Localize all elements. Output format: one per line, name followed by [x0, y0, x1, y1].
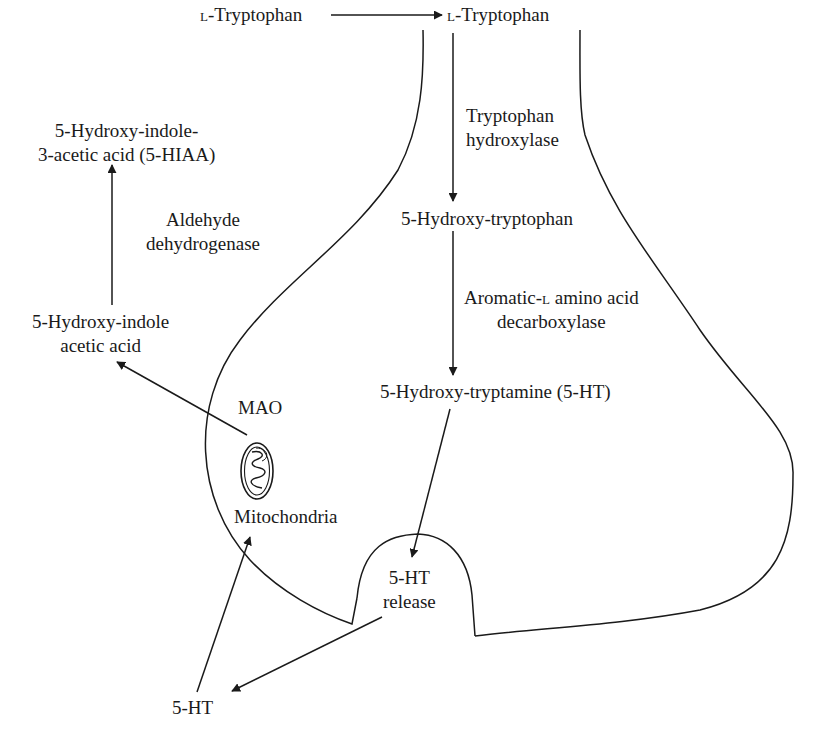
label-l-tryptophan-extracellular: l-Tryptophan: [200, 3, 302, 27]
mitochondrion-icon: [241, 443, 273, 499]
label-line: 5-Hydroxy-indole-: [38, 119, 215, 143]
l-prefix: l: [447, 4, 455, 25]
label-5-hiaa: 5-Hydroxy-indole- 3-acetic acid (5-HIAA): [38, 119, 215, 167]
label-l-tryptophan-terminal: l-Tryptophan: [447, 3, 549, 27]
label-5-hydroxytryptophan: 5-Hydroxy-tryptophan: [401, 207, 573, 231]
label-enzyme-tryptophan-hydroxylase: Tryptophan hydroxylase: [466, 104, 559, 152]
label-text: Aromatic-: [464, 287, 542, 308]
diagram-drawing: [0, 0, 822, 743]
label-line: Aromatic-l amino acid: [464, 286, 639, 310]
label-line: acetic acid: [32, 334, 169, 358]
label-5-hydroxytryptamine: 5-Hydroxy-tryptamine (5-HT): [380, 380, 611, 404]
label-text: -Tryptophan: [208, 4, 302, 25]
l-prefix: l: [542, 287, 550, 308]
l-prefix: l: [200, 4, 208, 25]
label-line: Aldehyde: [146, 208, 260, 232]
label-text: -Tryptophan: [455, 4, 549, 25]
label-mitochondria: Mitochondria: [234, 505, 337, 529]
label-line: decarboxylase: [464, 310, 639, 334]
label-line: 5-Hydroxy-indole: [32, 310, 169, 334]
membrane-left: [205, 30, 423, 624]
arrow-reuptake-to-mitochondria: [197, 537, 250, 692]
label-mao: MAO: [238, 396, 282, 420]
label-line: dehydrogenase: [146, 232, 260, 256]
serotonin-pathway-diagram: l-Tryptophan l-Tryptophan Tryptophan hyd…: [0, 0, 822, 743]
label-5ht-release: 5-HT release: [383, 566, 436, 614]
label-text: amino acid: [550, 287, 639, 308]
label-5-hydroxyindole-acetic-acid: 5-Hydroxy-indole acetic acid: [32, 310, 169, 358]
label-line: hydroxylase: [466, 128, 559, 152]
arrow-mao-to-hia: [117, 362, 247, 435]
label-enzyme-aldehyde-dehydrogenase: Aldehyde dehydrogenase: [146, 208, 260, 256]
arrow-release-to-synaptic-ht: [232, 617, 382, 691]
label-line: Tryptophan: [466, 104, 559, 128]
label-line: 5-HT: [383, 566, 436, 590]
label-5ht-synaptic: 5-HT: [172, 696, 213, 720]
label-line: release: [383, 590, 436, 614]
arrow-ht-to-release: [412, 409, 450, 557]
label-enzyme-aadc: Aromatic-l amino acid decarboxylase: [464, 286, 639, 334]
label-line: 3-acetic acid (5-HIAA): [38, 143, 215, 167]
